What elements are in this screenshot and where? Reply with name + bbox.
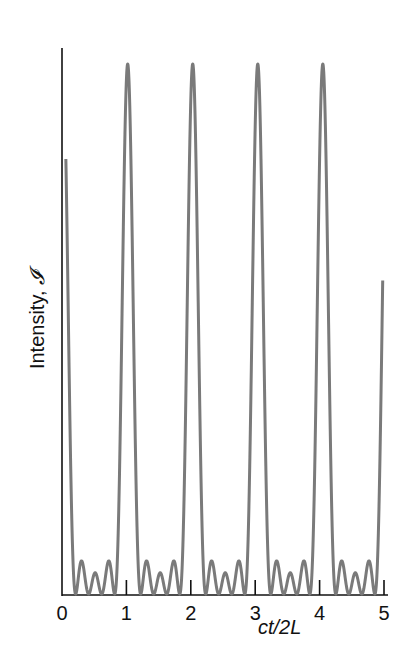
y-axis-title-text: Intensity, [26, 285, 48, 369]
x-tick-label: 0 [56, 602, 67, 624]
intensity-curve [66, 64, 383, 594]
x-tick-label: 4 [314, 602, 325, 624]
y-axis-title-symbol: 𝓘 [25, 265, 49, 285]
x-tick-label: 2 [185, 602, 196, 624]
x-tick-label: 1 [121, 602, 132, 624]
y-axis-title: Intensity, 𝓘 [25, 265, 49, 369]
x-axis-title: ct/2L [258, 616, 301, 638]
x-tick-label: 5 [378, 602, 389, 624]
intensity-chart: 012345 ct/2L Intensity, 𝓘 [0, 0, 409, 669]
x-axis-tick-labels: 012345 [56, 602, 389, 624]
